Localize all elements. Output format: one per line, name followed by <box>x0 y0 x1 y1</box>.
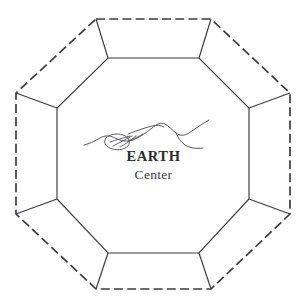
landscape-sketch <box>84 120 209 150</box>
connector-segment <box>16 93 57 108</box>
inner-octagon <box>57 58 249 253</box>
connector-segment <box>16 199 57 214</box>
connector-segment <box>249 199 290 214</box>
sketch-oval-feature <box>105 134 130 150</box>
connector-segment <box>96 19 108 58</box>
connector-segment <box>249 93 290 108</box>
connector-segment <box>96 253 108 289</box>
octagon-diagram: EARTH Center <box>0 0 307 306</box>
connector-segment <box>199 19 211 58</box>
octagon-diagram-svg <box>0 0 307 306</box>
sketch-stroke-d <box>128 134 143 141</box>
sketch-horizon-line <box>84 120 209 145</box>
connector-segment <box>199 253 211 289</box>
